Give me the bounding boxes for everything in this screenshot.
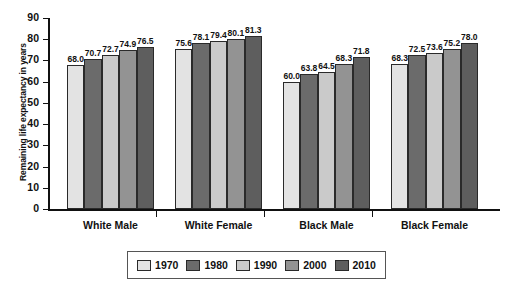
bar: 81.3 (245, 36, 262, 209)
bar-value-label: 78.0 (461, 32, 478, 42)
bar: 75.6 (175, 49, 192, 209)
y-axis-tick-label: 0 (33, 202, 39, 214)
legend-label: 2000 (303, 259, 326, 271)
bar-group: 68.372.573.675.278.0 (391, 18, 478, 209)
x-axis-group-tick (264, 211, 265, 217)
legend-label: 1990 (254, 259, 277, 271)
y-axis-tick-label: 60 (27, 75, 39, 87)
bar-value-label: 68.0 (67, 54, 84, 64)
legend-swatch (137, 260, 151, 271)
bar-value-label: 79.4 (210, 30, 227, 40)
legend-item[interactable]: 1970 (137, 259, 178, 271)
y-axis-tick: 50 (43, 103, 48, 104)
bar-value-label: 73.6 (426, 42, 443, 52)
legend-swatch (186, 260, 200, 271)
bar: 76.5 (137, 47, 154, 209)
bar: 80.1 (227, 39, 244, 209)
bar-value-label: 70.7 (85, 48, 102, 58)
legend-label: 1980 (204, 259, 227, 271)
bar-group: 60.063.864.568.371.8 (283, 18, 370, 209)
bar-value-label: 68.3 (336, 53, 353, 63)
legend-item[interactable]: 1980 (186, 259, 227, 271)
bar-value-label: 78.1 (193, 32, 210, 42)
bar: 72.7 (102, 55, 119, 209)
bar: 71.8 (353, 57, 370, 209)
y-axis-tick-label: 80 (27, 32, 39, 44)
y-axis-tick-label: 70 (27, 53, 39, 65)
bar-value-label: 72.7 (102, 44, 119, 54)
bar-value-label: 81.3 (245, 25, 262, 35)
bar: 78.1 (192, 43, 209, 209)
bar: 74.9 (119, 50, 136, 209)
bar-value-label: 75.2 (444, 38, 461, 48)
bar-value-label: 64.5 (318, 61, 335, 71)
y-axis-tick: 60 (43, 82, 48, 83)
category-label: White Female (175, 219, 262, 231)
bar-value-label: 63.8 (301, 63, 318, 73)
bar-value-label: 75.6 (175, 38, 192, 48)
y-axis-tick-label: 40 (27, 117, 39, 129)
category-label: White Male (67, 219, 154, 231)
y-axis-tick: 10 (43, 188, 48, 189)
bar: 70.7 (84, 59, 101, 209)
bar-group: 68.070.772.774.976.5 (67, 18, 154, 209)
legend-item[interactable]: 2010 (335, 259, 376, 271)
bar-value-label: 71.8 (353, 46, 370, 56)
bar-value-label: 80.1 (228, 28, 245, 38)
y-axis-tick: 0 (43, 209, 48, 210)
y-axis-tick-label: 90 (27, 11, 39, 23)
bar-value-label: 76.5 (137, 36, 154, 46)
y-axis-tick: 30 (43, 145, 48, 146)
bar: 64.5 (318, 72, 335, 209)
bar-chart: Remaining life expectancy in years 01020… (0, 0, 513, 294)
y-axis-tick: 80 (43, 39, 48, 40)
legend-swatch (285, 260, 299, 271)
bar: 72.5 (408, 55, 425, 209)
category-label: Black Male (283, 219, 370, 231)
bar: 68.3 (335, 64, 352, 209)
legend-item[interactable]: 2000 (285, 259, 326, 271)
legend-item[interactable]: 1990 (236, 259, 277, 271)
y-axis-tick: 20 (43, 167, 48, 168)
plot-area: 0102030405060708090 68.070.772.774.976.5… (48, 18, 500, 211)
legend-swatch (236, 260, 250, 271)
bar: 75.2 (443, 49, 460, 209)
x-axis-line (48, 209, 500, 211)
legend-swatch (335, 260, 349, 271)
category-label: Black Female (391, 219, 478, 231)
bar: 68.0 (67, 65, 84, 209)
bar: 68.3 (391, 64, 408, 209)
legend-label: 2010 (353, 259, 376, 271)
y-axis-tick-label: 30 (27, 138, 39, 150)
bar-value-label: 72.5 (409, 44, 426, 54)
y-axis-tick-label: 10 (27, 181, 39, 193)
bar-group: 75.678.179.480.181.3 (175, 18, 262, 209)
x-axis-group-tick (156, 211, 157, 217)
bar-value-label: 68.3 (391, 53, 408, 63)
y-axis-tick: 70 (43, 60, 48, 61)
chart-legend: 19701980199020002010 (127, 251, 386, 279)
y-axis-tick-label: 50 (27, 96, 39, 108)
y-axis-tick: 90 (43, 18, 48, 19)
bar: 60.0 (283, 82, 300, 209)
bar: 73.6 (426, 53, 443, 209)
legend-items: 19701980199020002010 (133, 259, 380, 271)
bar-value-label: 60.0 (283, 71, 300, 81)
y-axis-tick-label: 20 (27, 160, 39, 172)
bar-value-label: 74.9 (120, 39, 137, 49)
legend-label: 1970 (155, 259, 178, 271)
y-axis-tick: 40 (43, 124, 48, 125)
y-axis-line (48, 18, 50, 211)
bar: 63.8 (300, 74, 317, 209)
x-axis-group-tick (372, 211, 373, 217)
bar: 78.0 (461, 43, 478, 209)
bar: 79.4 (210, 41, 227, 210)
